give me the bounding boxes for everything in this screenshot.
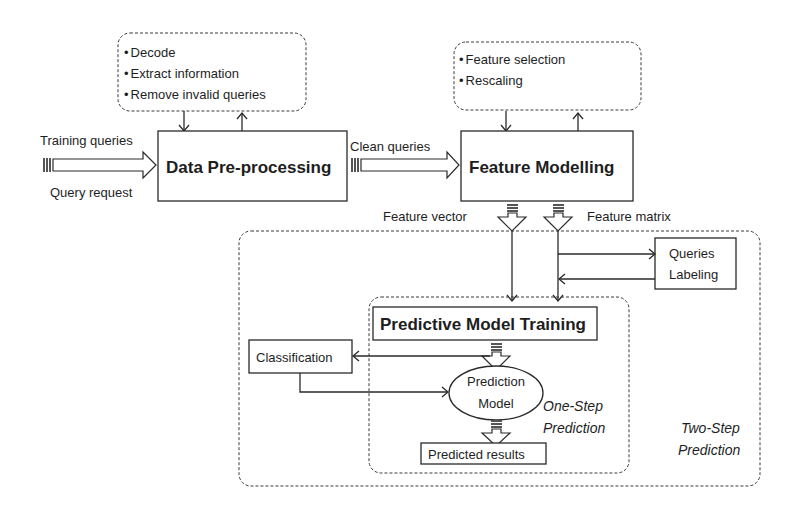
queries-labeling-node: Queries Labeling xyxy=(655,238,736,289)
svg-text:•Rescaling: •Rescaling xyxy=(459,73,523,88)
svg-text:•Remove invalid queries: •Remove invalid queries xyxy=(124,87,266,102)
preprocess-notes-box: •Decode •Extract information •Remove inv… xyxy=(118,33,306,111)
svg-text:Model: Model xyxy=(478,396,514,411)
svg-text:Labeling: Labeling xyxy=(669,267,718,282)
feature-notes-connectors xyxy=(501,111,583,131)
svg-text:Queries: Queries xyxy=(669,246,715,261)
note-remove-invalid-queries: Remove invalid queries xyxy=(131,87,267,102)
svg-text:Classification: Classification xyxy=(256,350,333,365)
preprocess-notes-connectors xyxy=(179,111,247,131)
clean-queries-label: Clean queries xyxy=(350,139,431,154)
svg-text:Predictive Model Training: Predictive Model Training xyxy=(380,315,586,334)
note-decode: Decode xyxy=(131,45,176,60)
note-extract-information: Extract information xyxy=(131,66,239,81)
predictive-model-training-node: Predictive Model Training xyxy=(373,307,597,340)
model-to-results-arrow xyxy=(482,420,510,446)
clean-queries-arrow: Clean queries xyxy=(350,139,459,178)
predicted-results-node: Predicted results xyxy=(421,443,546,464)
svg-text:•Decode: •Decode xyxy=(124,45,175,60)
svg-text:Feature Modelling: Feature Modelling xyxy=(469,158,614,177)
prediction-model-node: Prediction Model xyxy=(449,366,543,420)
svg-text:Two-Step: Two-Step xyxy=(681,420,740,436)
svg-text:Predicted results: Predicted results xyxy=(428,447,525,462)
svg-text:Data Pre-processing: Data Pre-processing xyxy=(166,158,331,177)
note-feature-selection: Feature selection xyxy=(466,52,566,67)
feature-vector-label: Feature vector xyxy=(383,209,467,224)
svg-text:Prediction: Prediction xyxy=(467,374,525,389)
svg-text:•Extract information: •Extract information xyxy=(124,66,239,81)
feature-modelling-node: Feature Modelling xyxy=(461,131,633,201)
svg-text:•Feature selection: •Feature selection xyxy=(459,52,565,67)
two-step-connectors xyxy=(507,231,655,301)
data-preprocessing-node: Data Pre-processing xyxy=(158,131,347,201)
classification-node: Classification xyxy=(249,340,352,373)
training-queries-label: Training queries xyxy=(40,133,133,148)
query-request-label: Query request xyxy=(50,185,133,200)
training-queries-arrow: Training queries Query request xyxy=(40,133,156,200)
feature-vector-arrow: Feature vector xyxy=(383,204,526,231)
feature-matrix-arrow: Feature matrix xyxy=(544,204,671,231)
feature-notes-box: •Feature selection •Rescaling xyxy=(454,42,641,110)
svg-text:Prediction: Prediction xyxy=(543,420,605,436)
svg-text:One-Step: One-Step xyxy=(543,398,603,414)
note-rescaling: Rescaling xyxy=(466,73,523,88)
diagram-canvas: •Decode •Extract information •Remove inv… xyxy=(0,0,790,509)
svg-text:Prediction: Prediction xyxy=(678,442,740,458)
feature-matrix-label: Feature matrix xyxy=(587,209,671,224)
